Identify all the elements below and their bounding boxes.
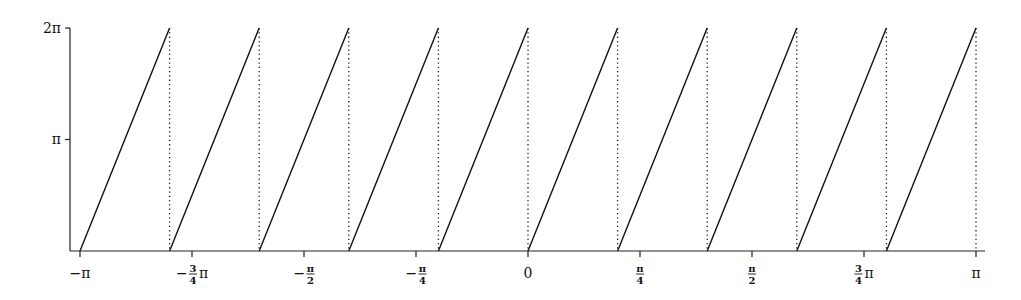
phase-ramp-segment [259,28,349,251]
svg-text:−: − [293,265,305,281]
svg-text:4: 4 [637,275,644,286]
svg-text:3: 3 [190,263,197,274]
phase-ramp-segment [797,28,887,251]
y-axis-ticks: π2π [43,20,70,148]
phase-ramp-segment [528,28,618,251]
y-tick-label: π [52,131,61,147]
svg-text:−π: −π [70,265,91,281]
x-tick-label: π4 [636,263,644,286]
phase-ramp-segment [80,28,170,251]
svg-text:4: 4 [419,275,426,286]
x-tick-label: −π2 [293,263,314,286]
svg-text:π: π [865,265,874,281]
svg-text:−: − [176,265,188,281]
x-tick-label: 34π [855,263,874,286]
svg-text:2: 2 [749,275,756,286]
svg-text:π: π [636,263,643,274]
phase-ramp-segment [438,28,528,251]
plot-area [80,28,976,251]
svg-text:2: 2 [307,275,314,286]
phase-ramp-segment [349,28,439,251]
x-axis-ticks: −π−34π−π2−π40π4π234ππ [70,251,981,286]
sawtooth-phase-chart: −π−34π−π2−π40π4π234ππ π2π [0,0,1021,300]
svg-text:−: − [405,265,417,281]
svg-text:π: π [971,265,980,281]
x-tick-label: π [971,265,980,281]
x-tick-label: −π4 [405,263,426,286]
x-tick-label: 0 [524,265,533,281]
phase-ramp-segment [886,28,976,251]
svg-text:π: π [199,265,208,281]
svg-text:4: 4 [855,275,862,286]
svg-text:4: 4 [190,275,197,286]
phase-ramp-segment [618,28,708,251]
y-tick-label: 2π [43,20,61,36]
svg-text:π: π [748,263,755,274]
phase-ramp-segment [707,28,797,251]
svg-text:3: 3 [855,263,862,274]
x-tick-label: −34π [176,263,208,286]
x-tick-label: π2 [748,263,756,286]
svg-text:π: π [307,263,314,274]
x-tick-label: −π [70,265,91,281]
svg-text:0: 0 [524,265,533,281]
svg-text:π: π [419,263,426,274]
phase-ramp-segment [170,28,260,251]
